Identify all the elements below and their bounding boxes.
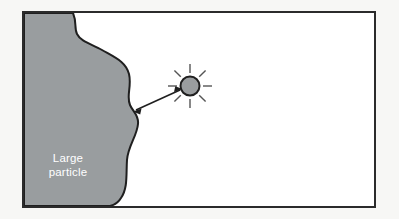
small-particle-circle — [181, 77, 200, 96]
large-particle-label-line1: Large — [53, 152, 83, 164]
figure-container: Large particle — [0, 0, 399, 219]
diagram-canvas: Large particle — [0, 0, 399, 219]
large-particle-label-line2: particle — [49, 166, 88, 178]
